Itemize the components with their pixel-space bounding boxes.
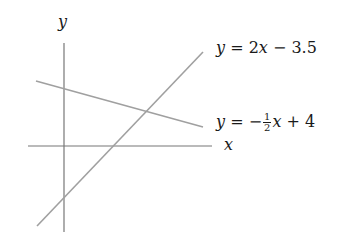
line-1-eq: = 2 xyxy=(225,38,259,57)
line-1-rest: − 3.5 xyxy=(268,38,317,57)
fraction-one-half: 12 xyxy=(263,112,271,133)
x-axis-label: x xyxy=(224,135,233,154)
line-1-var: x xyxy=(259,38,268,57)
line-neg-half-x-plus-4 xyxy=(36,81,203,127)
coordinate-diagram: y x y = 2x − 3.5 y = −12x + 4 xyxy=(0,0,355,239)
y-axis-label: y xyxy=(58,12,67,31)
line-1-label: y = 2x − 3.5 xyxy=(216,38,317,57)
line-2-lhs: y xyxy=(216,112,225,131)
line-1-lhs: y xyxy=(216,38,225,57)
line-2-label: y = −12x + 4 xyxy=(216,112,315,133)
line-2-eq: = − xyxy=(225,112,262,131)
line-2-rest: + 4 xyxy=(281,112,315,131)
line-2x-minus-3.5 xyxy=(37,52,203,226)
